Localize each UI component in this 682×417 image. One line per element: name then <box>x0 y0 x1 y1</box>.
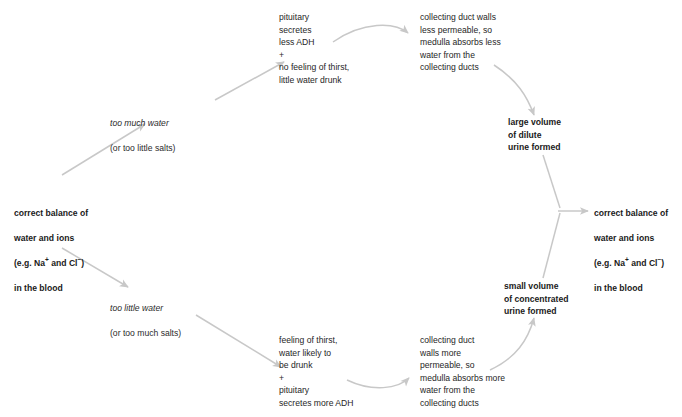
arrow-thirst-to-duct-more-permeable <box>347 378 409 388</box>
node-duct-less-permeable: collecting duct walls less permeable, so… <box>420 11 501 74</box>
node-pituitary-less-adh: pituitary secretes less ADH + no feeling… <box>279 11 349 87</box>
start-balance-line3: (e.g. Na+ and Cl−) <box>14 257 88 270</box>
start-balance-line2: water and ions <box>14 232 88 245</box>
arrow-small-volume-to-junction <box>543 213 560 278</box>
osmoregulation-diagram: correct balance of water and ions (e.g. … <box>0 0 682 417</box>
arrow-too-much-water-to-pituitary <box>215 62 284 100</box>
end-balance-line1: correct balance of <box>594 207 668 220</box>
node-start-balance: correct balance of water and ions (e.g. … <box>14 194 88 307</box>
node-large-volume: large volume of dilute urine formed <box>508 116 561 154</box>
end-balance-line3: (e.g. Na+ and Cl−) <box>594 257 668 270</box>
too-much-water-italic: too much water <box>110 117 175 130</box>
end-balance-line2: water and ions <box>594 232 668 245</box>
arrow-large-volume-to-junction <box>543 155 560 208</box>
node-duct-more-permeable: collecting duct walls more permeable, so… <box>420 334 505 410</box>
too-much-water-plain: (or too little salts) <box>110 142 175 155</box>
label-too-little-water: too little water (or too much salts) <box>110 289 181 352</box>
arrow-too-little-water-to-thirst <box>196 315 281 367</box>
node-end-balance: correct balance of water and ions (e.g. … <box>594 194 668 307</box>
too-little-water-plain: (or too much salts) <box>110 327 181 340</box>
start-balance-line4: in the blood <box>14 282 88 295</box>
label-too-much-water: too much water (or too little salts) <box>110 104 175 167</box>
node-small-volume: small volume of concentrated urine forme… <box>504 280 568 318</box>
start-balance-line1: correct balance of <box>14 207 88 220</box>
too-little-water-italic: too little water <box>110 302 181 315</box>
end-balance-line4: in the blood <box>594 282 668 295</box>
node-thirst-more-adh: feeling of thirst, water likely to be dr… <box>279 334 354 410</box>
